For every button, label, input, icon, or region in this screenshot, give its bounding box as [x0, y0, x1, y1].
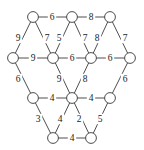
- graph-node: [105, 12, 116, 23]
- edge-weight-label: 7: [121, 33, 129, 44]
- edge-weight-label: 8: [93, 33, 101, 44]
- edge-weight-text: 6: [50, 12, 55, 22]
- edge-weight-label: 3: [34, 114, 42, 125]
- edge-weight-label: 9: [29, 53, 37, 64]
- graph-canvas: 6897578796669864434254: [0, 0, 144, 150]
- edge-weight-text: 6: [108, 53, 113, 63]
- edge-labels-layer: 6897578796669864434254: [14, 12, 129, 144]
- edge-weight-label: 9: [55, 74, 63, 85]
- edge-weight-text: 9: [16, 33, 21, 43]
- edge-weight-label: 8: [81, 74, 89, 85]
- weighted-graph-diagram: 6897578796669864434254: [0, 0, 144, 150]
- edge-weight-text: 4: [70, 133, 75, 143]
- edge-weight-text: 6: [70, 53, 75, 63]
- edge-weight-text: 2: [77, 114, 82, 124]
- graph-node: [48, 53, 59, 64]
- edge-weight-label: 4: [48, 93, 56, 104]
- edge-weight-text: 6: [16, 74, 21, 84]
- edge-weight-text: 7: [45, 33, 50, 43]
- edge-weight-text: 8: [95, 33, 100, 43]
- edge-weight-text: 6: [123, 74, 128, 84]
- edge-weight-label: 6: [106, 53, 114, 64]
- nodes-layer: [8, 12, 136, 144]
- edge-weight-text: 4: [58, 114, 63, 124]
- graph-node: [105, 93, 116, 104]
- edge-weight-label: 7: [43, 33, 51, 44]
- edge-weight-text: 7: [123, 33, 128, 43]
- edge-weight-text: 5: [57, 33, 62, 43]
- edge-weight-text: 8: [89, 12, 94, 22]
- edge-weight-label: 4: [87, 93, 95, 104]
- edge-weight-label: 9: [14, 33, 22, 44]
- graph-node: [28, 93, 39, 104]
- edge-weight-label: 6: [68, 53, 76, 64]
- graph-node: [86, 133, 97, 144]
- graph-node: [67, 12, 78, 23]
- edge-weight-label: 4: [56, 114, 64, 125]
- edge-weight-label: 7: [81, 33, 89, 44]
- edge-weight-label: 6: [48, 12, 56, 23]
- graph-node: [8, 53, 19, 64]
- edge-weight-label: 8: [87, 12, 95, 23]
- edge-weight-label: 5: [96, 114, 104, 125]
- edge-weight-label: 6: [14, 74, 22, 85]
- edge-weight-label: 5: [55, 33, 63, 44]
- graph-node: [125, 53, 136, 64]
- edge-weight-text: 5: [98, 114, 103, 124]
- edges-layer: [15, 17, 127, 138]
- graph-node: [86, 53, 97, 64]
- graph-node: [48, 133, 59, 144]
- graph-node: [67, 93, 78, 104]
- edge-weight-label: 4: [68, 133, 76, 144]
- edge-weight-label: 6: [121, 74, 129, 85]
- edge-weight-text: 9: [57, 74, 62, 84]
- edge-weight-text: 8: [83, 74, 88, 84]
- edge-weight-text: 9: [31, 53, 36, 63]
- edge-weight-text: 3: [36, 114, 41, 124]
- edge-weight-text: 4: [89, 93, 94, 103]
- edge-weight-text: 7: [83, 33, 88, 43]
- edge-weight-text: 4: [50, 93, 55, 103]
- graph-node: [28, 12, 39, 23]
- edge-weight-label: 2: [75, 114, 83, 125]
